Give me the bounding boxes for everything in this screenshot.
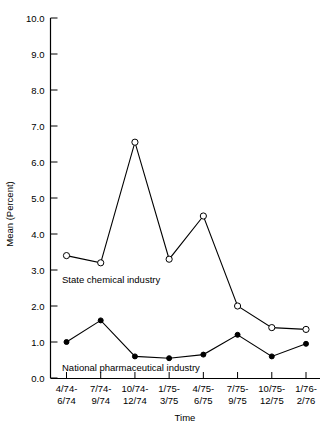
x-tick-label: 1/75- [158,383,180,394]
data-point [98,318,103,323]
data-point [235,332,240,337]
series-label-national-pharmaceutical-industry: National pharmaceutical industry [62,362,200,373]
x-tick-label: 4/75- [193,383,215,394]
series-line-0 [67,142,307,329]
x-tick-label: 7/74- [90,383,112,394]
y-tick-label: 0.0 [31,373,44,384]
series-markers [63,139,309,361]
y-axis-tick-labels: 0.01.02.03.04.05.06.07.08.09.010.0 [26,13,45,384]
x-tick-label: 9/75 [228,395,247,406]
y-tick-label: 9.0 [31,49,44,60]
data-point [200,213,206,219]
data-point [98,260,104,266]
x-tick-label: 10/74- [121,383,148,394]
data-point [201,352,206,357]
y-tick-label: 2.0 [31,301,44,312]
data-point [132,139,138,145]
x-tick-label: 7/75- [227,383,249,394]
x-tick-label: 2/76 [297,395,316,406]
line-chart: 0.01.02.03.04.05.06.07.08.09.010.0 4/74-… [0,0,329,428]
y-axis-ticks [51,18,58,378]
x-tick-label: 12/74 [123,395,147,406]
data-point [64,340,69,345]
data-point [303,326,309,332]
data-point [166,256,172,262]
series-label-state-chemical-industry: State chemical industry [62,274,160,285]
x-tick-label: 12/75 [260,395,284,406]
x-tick-label: 9/74 [91,395,110,406]
x-axis-title: Time [175,412,196,423]
data-point [234,303,240,309]
x-tick-label: 4/74- [56,383,78,394]
y-tick-label: 10.0 [26,13,45,24]
x-tick-label: 3/75 [160,395,179,406]
y-axis-title: Mean (Percent) [4,181,15,246]
y-tick-label: 8.0 [31,85,44,96]
data-point [63,253,69,259]
y-tick-label: 6.0 [31,157,44,168]
y-tick-label: 3.0 [31,265,44,276]
y-tick-label: 7.0 [31,121,44,132]
x-tick-label: 6/75 [194,395,213,406]
x-tick-label: 10/75- [258,383,285,394]
x-tick-label: 1/76- [295,383,317,394]
data-point [132,354,137,359]
y-tick-label: 5.0 [31,193,44,204]
data-point [304,341,309,346]
data-point [167,356,172,361]
y-tick-label: 1.0 [31,337,44,348]
x-tick-label: 6/74 [57,395,76,406]
chart-container: 0.01.02.03.04.05.06.07.08.09.010.0 4/74-… [0,0,329,428]
data-point [269,354,274,359]
y-tick-label: 4.0 [31,229,44,240]
x-axis-tick-labels: 4/74-6/747/74-9/7410/74-12/741/75-3/754/… [56,383,317,406]
data-point [269,325,275,331]
